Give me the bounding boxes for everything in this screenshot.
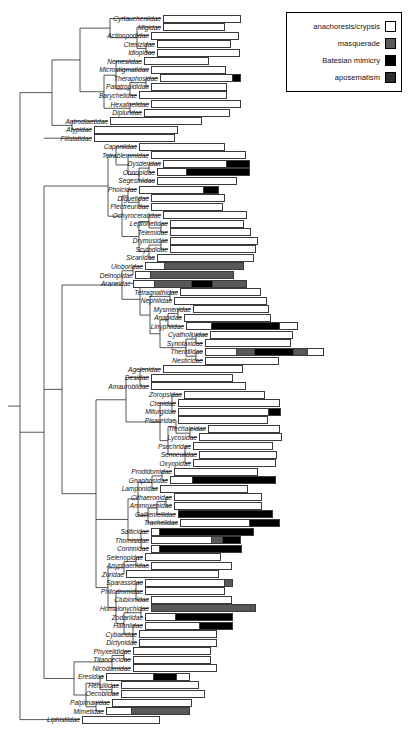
bar-segment-masquerade	[131, 708, 189, 714]
bar-segment-crypsis	[152, 101, 240, 107]
bar-segment-crypsis	[107, 708, 131, 714]
taxon-label: Filistatidae	[60, 133, 92, 142]
defense-proportion-bar	[160, 485, 248, 493]
defense-proportion-bar	[145, 622, 233, 630]
bar-segment-crypsis	[171, 246, 255, 252]
bar-segment-crypsis	[206, 340, 290, 346]
bar-segment-batesian	[226, 161, 249, 167]
defense-proportion-bar	[157, 254, 254, 262]
bar-segment-masquerade	[150, 272, 233, 278]
bar-segment-crypsis	[146, 614, 175, 620]
defense-proportion-bar	[144, 57, 209, 65]
defense-proportion-bar	[205, 348, 324, 356]
taxon-row: Liphistiidae	[0, 715, 411, 724]
bar-segment-crypsis	[152, 84, 226, 90]
legend-label-masquerade: masquerade	[338, 39, 380, 48]
defense-proportion-bar	[151, 203, 223, 211]
bar-segment-crypsis	[152, 597, 231, 603]
defense-proportion-bar	[151, 83, 227, 91]
taxon-label: Araneidae	[101, 279, 131, 288]
defense-proportion-bar	[151, 32, 239, 40]
bar-segment-masquerade	[293, 349, 307, 355]
bar-segment-masquerade	[154, 281, 191, 287]
legend-swatch-masquerade	[385, 38, 396, 49]
bar-segment-batesian	[254, 349, 292, 355]
defense-proportion-bar	[178, 399, 280, 407]
taxon-label: Trachelidae	[144, 518, 178, 527]
defense-proportion-bar	[157, 49, 240, 57]
defense-proportion-bar	[193, 459, 276, 467]
defense-proportion-bar	[157, 177, 237, 185]
bar-segment-crypsis	[185, 315, 270, 321]
bar-segment-batesian	[159, 546, 241, 552]
bar-segment-crypsis	[152, 563, 231, 569]
legend-label-aposematism: aposematism	[335, 73, 380, 82]
bar-segment-batesian	[191, 281, 211, 287]
bar-segment-crypsis	[152, 204, 222, 210]
bar-segment-masquerade	[152, 605, 255, 611]
bar-segment-crypsis	[95, 127, 177, 133]
bar-segment-crypsis	[164, 212, 246, 218]
bar-segment-crypsis	[307, 349, 323, 355]
defense-proportion-bar	[106, 707, 190, 715]
defense-proportion-bar	[160, 74, 241, 82]
defense-proportion-bar	[151, 536, 241, 544]
bar-segment-crypsis	[179, 400, 279, 406]
defense-proportion-bar	[139, 639, 217, 647]
defense-proportion-bar	[151, 545, 242, 553]
bar-segment-crypsis	[279, 323, 297, 329]
defense-proportion-bar	[151, 374, 233, 382]
legend-label-crypsis: anachoresis/crypsis	[313, 22, 380, 31]
defense-proportion-bar	[151, 528, 254, 536]
defense-proportion-bar	[157, 168, 250, 176]
defense-proportion-bar	[170, 237, 258, 245]
defense-proportion-bar	[163, 160, 250, 168]
bar-segment-crypsis	[164, 161, 226, 167]
bar-segment-crypsis	[200, 434, 281, 440]
bar-segment-crypsis	[175, 298, 266, 304]
bar-segment-crypsis	[146, 263, 164, 269]
bar-segment-batesian	[175, 614, 232, 620]
defense-proportion-bar	[151, 66, 226, 74]
defense-proportion-bar	[174, 493, 262, 501]
defense-proportion-bar	[170, 220, 244, 228]
defense-proportion-bar	[193, 442, 273, 450]
bar-segment-crypsis	[140, 631, 216, 637]
bar-segment-crypsis	[200, 452, 276, 458]
bar-segment-batesian	[159, 529, 253, 535]
bar-segment-crypsis	[152, 529, 159, 535]
bar-segment-crypsis	[140, 92, 226, 98]
bar-segment-crypsis	[158, 41, 230, 47]
defense-proportion-bar	[133, 664, 217, 672]
legend: anachoresis/crypsis masquerade Batesian …	[286, 12, 402, 92]
bar-segment-crypsis	[122, 682, 198, 688]
bar-segment-crypsis	[194, 443, 272, 449]
defense-proportion-bar	[180, 288, 261, 296]
defense-proportion-bar	[133, 656, 211, 664]
bar-segment-crypsis	[146, 554, 220, 560]
bar-segment-crypsis	[175, 503, 261, 509]
bar-segment-crypsis	[152, 546, 159, 552]
defense-proportion-bar	[193, 305, 269, 313]
defense-proportion-bar	[145, 262, 244, 270]
defense-proportion-bar	[110, 117, 202, 125]
defense-proportion-bar	[199, 451, 277, 459]
bar-segment-crypsis	[152, 375, 232, 381]
defense-proportion-bar	[145, 587, 225, 595]
legend-item-batesian: Batesian mimicry	[291, 52, 396, 69]
taxon-label: Amaurobiidae	[108, 381, 149, 390]
bar-segment-crypsis	[164, 16, 240, 22]
defense-proportion-bar	[145, 579, 233, 587]
bar-segment-batesian	[211, 323, 279, 329]
bar-segment-crypsis	[111, 118, 201, 124]
defense-proportion-bar	[151, 604, 256, 612]
bar-segment-crypsis	[161, 486, 247, 492]
bar-segment-crypsis	[134, 281, 154, 287]
taxon-label: Dipluridae	[112, 108, 142, 117]
bar-segment-crypsis	[194, 306, 268, 312]
bar-segment-masquerade	[236, 349, 254, 355]
bar-segment-crypsis	[152, 195, 224, 201]
bar-segment-crypsis	[194, 460, 275, 466]
bar-segment-batesian	[192, 477, 275, 483]
bar-segment-crypsis	[107, 674, 153, 680]
